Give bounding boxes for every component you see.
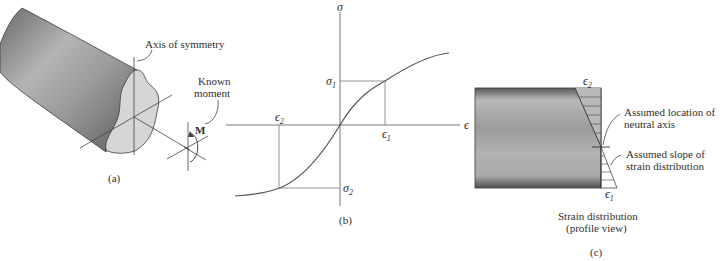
moment-leader	[205, 100, 218, 124]
strain-distribution-title: Strain distribution	[558, 210, 638, 222]
axis-leader	[137, 50, 152, 61]
neutral-axis-leader	[603, 114, 620, 145]
neutral-axis-annotation-2: neutral axis	[624, 118, 675, 130]
panel-c: ϵ2 ϵ1 Assumed location of neutral axis A…	[475, 74, 715, 259]
moment-horizontal-axis	[167, 136, 208, 159]
moment-symbol: M	[195, 124, 206, 136]
strain-tension-region	[601, 147, 617, 188]
caption-c: (c)	[590, 246, 603, 259]
sigma1-label: σ1	[326, 74, 336, 90]
axis-of-symmetry-label: Axis of symmetry	[145, 38, 225, 50]
slope-annotation-1: Assumed slope of	[626, 148, 705, 160]
known-moment-label-1: Known	[198, 75, 231, 87]
slope-leader	[611, 155, 621, 165]
eps2-label: ϵ2	[275, 110, 284, 126]
sigma2-label: σ2	[343, 181, 353, 197]
stress-strain-curve	[235, 53, 449, 196]
caption-a: (a)	[108, 172, 121, 185]
panel-a: M Axis of symmetry Known moment (a)	[0, 8, 231, 185]
eps2-strain-label: ϵ2	[583, 74, 592, 90]
caption-b: (b)	[339, 214, 352, 227]
sigma-axis-label: σ	[337, 0, 344, 14]
moment-arrow-icon	[190, 134, 198, 162]
neutral-axis-annotation-1: Assumed location of	[624, 106, 715, 118]
panel-b: σ ϵ σ1 ϵ1 ϵ2 σ2 (b)	[226, 0, 470, 227]
figure-canvas: M Axis of symmetry Known moment (a) σ ϵ …	[0, 0, 724, 261]
eps1-strain-label: ϵ1	[605, 187, 614, 203]
slope-annotation-2: strain distribution	[626, 160, 704, 172]
eps1-label: ϵ1	[382, 127, 391, 143]
known-moment-label-2: moment	[194, 87, 230, 99]
epsilon-axis-label: ϵ	[464, 118, 470, 132]
profile-view-title: (profile view)	[566, 222, 627, 235]
